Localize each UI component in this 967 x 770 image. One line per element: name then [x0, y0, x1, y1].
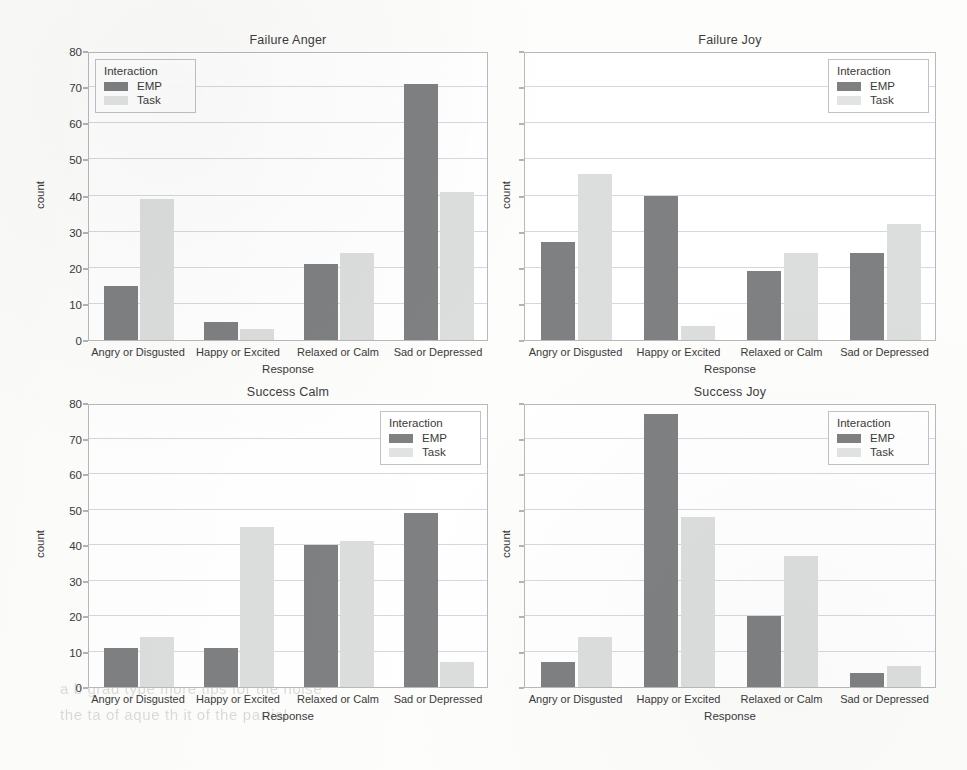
bar-task-3 — [887, 666, 922, 687]
bar-emp-2 — [747, 616, 782, 687]
bar-task-2 — [784, 556, 819, 687]
figure-bar-chart-grid: Failure Anger01020304050607080countAngry… — [0, 0, 967, 770]
legend-label-emp: EMP — [870, 432, 900, 444]
y-tick-mark — [519, 510, 524, 511]
legend-item-task[interactable]: Task — [837, 446, 920, 458]
y-axis-label: count — [500, 514, 512, 574]
x-axis-label: Response — [524, 710, 936, 722]
legend-label-task: Task — [870, 446, 900, 458]
legend-swatch-emp — [837, 434, 861, 443]
y-tick-mark — [519, 475, 524, 476]
panel-title: Success Joy — [524, 385, 936, 399]
legend-swatch-task — [837, 448, 861, 457]
legend-title: Interaction — [837, 417, 920, 429]
y-tick-mark — [519, 404, 524, 405]
x-tick-label-1: Happy or Excited — [627, 693, 730, 705]
y-tick-mark — [519, 581, 524, 582]
x-tick-label-2: Relaxed or Calm — [730, 693, 833, 705]
bar-task-0 — [578, 637, 613, 687]
bar-task-1 — [681, 517, 716, 687]
y-tick-mark — [519, 617, 524, 618]
legend-item-emp[interactable]: EMP — [837, 432, 920, 444]
chart-panel-4: Success JoycountAngry or DisgustedHappy … — [0, 0, 967, 770]
bar-emp-3 — [850, 673, 885, 687]
x-tick-label-0: Angry or Disgusted — [524, 693, 627, 705]
y-tick-mark — [519, 688, 524, 689]
y-tick-mark — [519, 546, 524, 547]
bar-emp-1 — [644, 414, 679, 687]
y-tick-mark — [519, 439, 524, 440]
x-axis-tick-labels: Angry or DisgustedHappy or ExcitedRelaxe… — [524, 693, 936, 705]
x-tick-label-3: Sad or Depressed — [833, 693, 936, 705]
chart-legend[interactable]: InteractionEMPTask — [828, 411, 929, 465]
bar-emp-0 — [541, 662, 576, 687]
y-tick-mark — [519, 652, 524, 653]
